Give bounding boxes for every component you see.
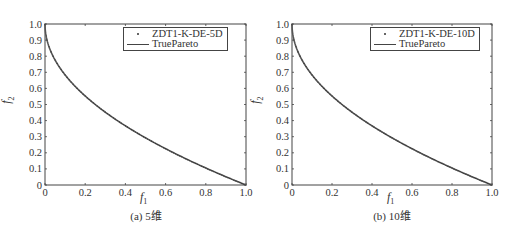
svg-text:0.2: 0.2 [79,187,92,198]
line-marker-icon [127,39,149,49]
svg-text:0: 0 [289,187,294,198]
svg-text:0.4: 0.4 [365,187,379,198]
legend: ZDT1-K-DE-5D TruePareto [123,27,228,51]
dot-marker-icon [127,29,149,39]
svg-text:0.2: 0.2 [325,187,338,198]
dot-marker-icon [374,29,396,39]
svg-text:0: 0 [42,187,47,198]
svg-text:0.6: 0.6 [405,187,418,198]
svg-text:0.2: 0.2 [276,147,289,158]
svg-text:0.9: 0.9 [276,35,289,46]
line-marker-icon [374,39,396,49]
svg-text:0.1: 0.1 [276,163,289,174]
svg-text:0.3: 0.3 [276,131,289,142]
svg-text:0: 0 [37,180,42,191]
svg-text:0.9: 0.9 [29,35,42,46]
legend-item-true-pareto: TruePareto [127,39,223,49]
svg-text:0: 0 [284,180,289,191]
y-axis-label: f2 [0,97,16,104]
x-axis-label: f1 [387,190,394,206]
svg-text:0.4: 0.4 [29,115,43,126]
y-axis-label: f2 [248,97,264,104]
svg-text:0.8: 0.8 [199,187,212,198]
svg-text:0.4: 0.4 [276,115,290,126]
svg-text:0.1: 0.1 [29,163,42,174]
figure-caption: (b) 10维 [264,207,512,223]
legend: ZDT1-K-DE-10D TruePareto [370,27,480,51]
svg-text:0.5: 0.5 [29,99,42,110]
svg-text:0.3: 0.3 [29,131,42,142]
svg-text:0.7: 0.7 [29,67,42,78]
svg-text:1.0: 1.0 [29,19,42,30]
chart-panel-10d: 00.10.20.30.40.50.60.70.80.91.000.20.40.… [256,0,512,243]
svg-text:0.8: 0.8 [445,187,458,198]
svg-text:0.8: 0.8 [29,51,42,62]
legend-item-true-pareto: TruePareto [374,39,475,49]
svg-text:0.6: 0.6 [159,187,172,198]
svg-text:1.0: 1.0 [276,19,289,30]
svg-text:1.0: 1.0 [239,187,252,198]
figure-caption: (a) 5维 [18,207,274,223]
svg-text:0.6: 0.6 [276,83,289,94]
x-axis-label: f1 [140,190,147,206]
svg-text:0.6: 0.6 [29,83,42,94]
svg-text:0.4: 0.4 [119,187,133,198]
svg-text:0.7: 0.7 [276,67,289,78]
svg-text:0.8: 0.8 [276,51,289,62]
svg-text:0.2: 0.2 [29,147,42,158]
svg-text:0.5: 0.5 [276,99,289,110]
svg-text:1.0: 1.0 [485,187,498,198]
chart-panel-5d: 00.10.20.30.40.50.60.70.80.91.000.20.40.… [0,0,256,243]
